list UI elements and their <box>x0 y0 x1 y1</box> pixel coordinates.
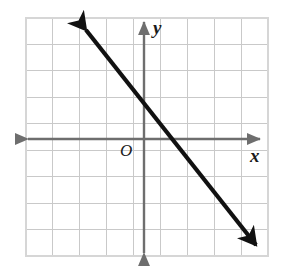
y-axis-label: y <box>153 18 161 37</box>
grid-border <box>26 18 268 256</box>
x-axis-label: x <box>250 146 260 165</box>
coordinate-plane-svg <box>0 0 283 272</box>
coordinate-plane-figure: y x O <box>0 0 283 272</box>
origin-label: O <box>120 142 132 159</box>
plotted-line <box>86 30 256 245</box>
grid-lines <box>26 18 268 256</box>
